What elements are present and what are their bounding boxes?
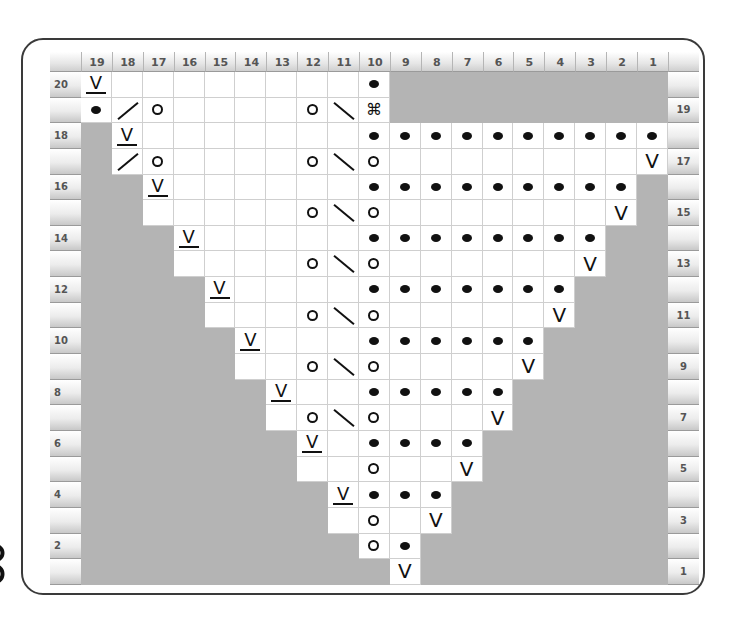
chart-cell-r17-c9 [390,149,421,175]
chart-cell-r10-c19 [81,328,112,354]
row-label-left [50,559,81,585]
row-label-left: 18 [50,123,81,149]
chart-cell-r17-c12 [297,149,328,175]
slip-stitch-icon: V [302,433,322,453]
purl-dot-icon [462,183,472,191]
row-label-left: 12 [50,277,81,303]
chart-cell-r3-c13 [266,508,297,534]
slip-stitch-icon: V [271,382,291,402]
chart-cell-r17-c11 [328,149,359,175]
chart-cell-r2-c14 [235,534,266,560]
purl-dot-icon [400,285,410,293]
chart-cell-r18-c5 [513,123,544,149]
chart-cell-r12-c1 [637,277,668,303]
chart-cell-r15-c2: V [606,200,637,226]
chart-cell-r17-c1: V [637,149,668,175]
chart-cell-r1-c6 [483,559,514,585]
purl-dot-icon [369,337,379,345]
purl-dot-icon [585,234,595,242]
chart-cell-r16-c15 [205,175,236,201]
v-stitch-icon: V [398,561,412,581]
row-label-left [50,149,81,175]
chart-cell-r17-c19 [81,149,112,175]
chart-cell-r7-c14 [235,405,266,431]
column-label-12: 12 [297,52,328,72]
chart-cell-r4-c1 [637,482,668,508]
chart-cell-r14-c14 [235,226,266,252]
chart-cell-r10-c6 [483,328,514,354]
chart-cell-r6-c17 [143,431,174,457]
chart-cell-r10-c18 [112,328,143,354]
purl-dot-icon [400,439,410,447]
chart-cell-r13-c5 [513,251,544,277]
slip-stitch-icon: V [148,177,168,197]
chart-cell-r6-c15 [205,431,236,457]
chart-cell-r5-c10 [359,457,390,483]
chart-cell-r12-c9 [390,277,421,303]
chart-cell-r8-c4 [544,380,575,406]
chart-cell-r15-c17 [143,200,174,226]
purl-dot-icon [585,183,595,191]
purl-dot-icon [523,285,533,293]
chart-cell-r20-c18 [112,72,143,98]
purl-dot-icon [369,439,379,447]
chart-cell-r4-c14 [235,482,266,508]
v-glyph: V [337,485,349,503]
row-label-left: 2 [50,534,81,560]
chart-cell-r11-c12 [297,303,328,329]
chart-cell-r13-c2 [606,251,637,277]
chart-cell-r18-c3 [575,123,606,149]
column-label-11: 11 [328,52,359,72]
slip-stitch-icon: V [333,485,353,505]
yarn-over-icon [307,258,318,269]
chart-cell-r6-c14 [235,431,266,457]
chart-cell-r13-c18 [112,251,143,277]
chart-cell-r18-c6 [483,123,514,149]
chart-cell-r14-c17 [143,226,174,252]
chart-cell-r12-c18 [112,277,143,303]
chart-cell-r16-c11 [328,175,359,201]
chart-cell-r16-c9 [390,175,421,201]
row-label-right [668,328,699,354]
purl-dot-icon [493,285,503,293]
chart-cell-r8-c3 [575,380,606,406]
chart-cell-r3-c11 [328,508,359,534]
chart-cell-r17-c8 [421,149,452,175]
v-stitch-icon: V [552,305,566,325]
chart-cell-r19-c12 [297,98,328,124]
chart-cell-r9-c6 [483,354,514,380]
left-decrease-icon [334,255,355,273]
chart-cell-r1-c3 [575,559,606,585]
chart-cell-r1-c13 [266,559,297,585]
chart-cell-r13-c8 [421,251,452,277]
chart-cell-r12-c12 [297,277,328,303]
chart-cell-r8-c9 [390,380,421,406]
purl-dot-icon [400,388,410,396]
chart-cell-r10-c8 [421,328,452,354]
chart-cell-r11-c1 [637,303,668,329]
chart-cell-r1-c11 [328,559,359,585]
chart-cell-r3-c5 [513,508,544,534]
yarn-over-icon [368,361,379,372]
chart-cell-r13-c19 [81,251,112,277]
chart-cell-r5-c12 [297,457,328,483]
column-label-17: 17 [143,52,174,72]
column-label-13: 13 [266,52,297,72]
chart-cell-r12-c14 [235,277,266,303]
row-label-right: 19 [668,98,699,124]
chart-cell-r1-c9: V [390,559,421,585]
chart-cell-r4-c18 [112,482,143,508]
chart-cell-r18-c13 [266,123,297,149]
chart-cell-r16-c3 [575,175,606,201]
chart-cell-r13-c6 [483,251,514,277]
yarn-over-icon [307,104,318,115]
chart-cell-r20-c14 [235,72,266,98]
chart-cell-r10-c5 [513,328,544,354]
chart-cell-r6-c16 [174,431,205,457]
chart-cell-r9-c16 [174,354,205,380]
right-decrease-icon [117,153,138,171]
row-label-right [668,226,699,252]
purl-dot-icon [554,132,564,140]
chart-cell-r12-c17 [143,277,174,303]
chart-cell-r12-c5 [513,277,544,303]
